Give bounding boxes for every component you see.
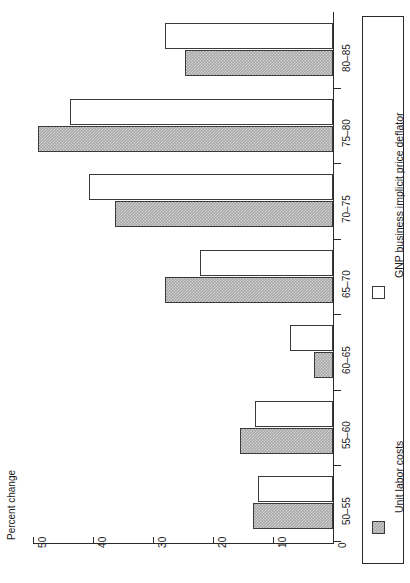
value-tick [33, 537, 34, 544]
value-tick [153, 537, 154, 544]
bar-unit-labor-costs [115, 201, 333, 227]
value-tick-label: 40 [97, 536, 108, 548]
category-tick [333, 163, 341, 164]
legend-label: Unit labor costs [393, 441, 405, 513]
value-tick-label: 50 [37, 536, 48, 548]
bar-unit-labor-costs [314, 352, 333, 378]
bar-gnp-deflator [290, 325, 333, 351]
bar-unit-labor-costs [240, 428, 333, 454]
bar-gnp-deflator [200, 250, 333, 276]
legend-box: Unit labor costsGNP business implicit pr… [362, 16, 404, 564]
value-tick-label: 20 [217, 536, 228, 548]
chart-page: Percent change 50403020100 80–8575–8070–… [0, 0, 410, 583]
bar-gnp-deflator [258, 476, 333, 502]
category-tick [333, 541, 341, 542]
bar-gnp-deflator [255, 401, 333, 427]
bar-unit-labor-costs [253, 503, 333, 529]
bar-gnp-deflator [70, 99, 333, 125]
value-tick-label: 30 [157, 536, 168, 548]
category-label: 50–55 [341, 497, 352, 525]
bar-unit-labor-costs [165, 277, 333, 303]
value-tick [93, 537, 94, 544]
legend-swatch-unit-labor-costs [372, 521, 385, 534]
category-tick [333, 465, 341, 466]
category-label: 60–65 [341, 346, 352, 374]
category-label: 75–80 [341, 119, 352, 147]
value-axis-line [33, 543, 333, 544]
plot-area: Percent change 50403020100 80–8575–8070–… [0, 0, 410, 583]
value-tick-label: 0 [337, 542, 348, 548]
bar-gnp-deflator [89, 174, 333, 200]
bar-unit-labor-costs [38, 126, 333, 152]
category-tick [333, 88, 341, 89]
category-tick [333, 314, 341, 315]
category-tick [333, 390, 341, 391]
category-label: 65–70 [341, 270, 352, 298]
value-tick-label: 10 [277, 536, 288, 548]
bar-gnp-deflator [165, 23, 333, 49]
category-label: 70–75 [341, 195, 352, 223]
category-label: 80–85 [341, 44, 352, 72]
legend-swatch-gnp-deflator [372, 286, 385, 299]
bar-unit-labor-costs [185, 50, 333, 76]
category-tick [333, 239, 341, 240]
legend-label: GNP business implicit price deflator [393, 112, 405, 278]
value-tick [273, 537, 274, 544]
value-axis-title: Percent change [6, 470, 17, 540]
category-label: 55–60 [341, 421, 352, 449]
value-tick [213, 537, 214, 544]
